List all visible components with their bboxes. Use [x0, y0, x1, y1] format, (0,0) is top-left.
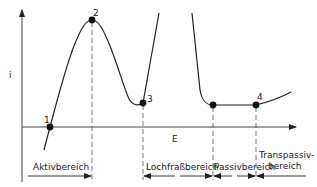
active-curve: [44, 13, 159, 150]
x-axis-label: E: [172, 134, 178, 144]
region-passivbereich: Passivbereich: [214, 162, 275, 172]
point-2-label: 2: [93, 8, 99, 18]
point-4: [253, 102, 260, 109]
point-4-label: 4: [257, 92, 263, 102]
polarization-diagram: i E 1 2 3 4 Aktivbereich Lochfraßbereich…: [0, 0, 317, 187]
y-axis-label: i: [9, 70, 12, 80]
passive-curve: [192, 13, 291, 105]
region-aktivbereich: Aktivbereich: [33, 162, 89, 172]
region-lochfrassbereich: Lochfraßbereich: [146, 162, 219, 172]
point-3: [140, 100, 147, 107]
point-3-label: 3: [147, 94, 153, 104]
region-transpassiv-line1: Transpassiv-: [258, 150, 314, 160]
point-passive-start: [210, 102, 217, 109]
curve-points: [47, 17, 260, 131]
region-transpassiv-line2: bereich: [268, 161, 301, 171]
point-1-label: 1: [44, 115, 50, 125]
region-dividers: [92, 22, 256, 180]
